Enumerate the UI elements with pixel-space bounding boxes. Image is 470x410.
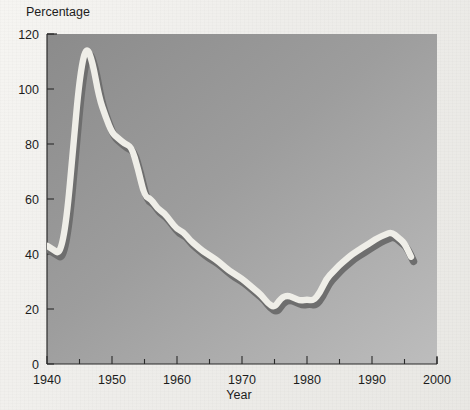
y-axis-title: Percentage <box>26 5 90 19</box>
y-tick-label: 20 <box>25 303 39 317</box>
line-chart: 020406080100120 194019501960197019801990… <box>0 0 470 410</box>
y-tick-label: 120 <box>18 28 39 42</box>
plot-area-background <box>47 34 437 364</box>
x-tick-label: 2000 <box>423 373 451 387</box>
chart-figure: 020406080100120 194019501960197019801990… <box>0 0 470 410</box>
x-tick-label: 1940 <box>33 373 61 387</box>
x-tick-label: 1950 <box>98 373 126 387</box>
x-axis-title: Year <box>226 388 251 402</box>
y-tick-label: 40 <box>25 248 39 262</box>
x-tick-label: 1960 <box>163 373 191 387</box>
y-tick-label: 80 <box>25 138 39 152</box>
x-tick-label: 1970 <box>228 373 256 387</box>
y-tick-label: 100 <box>18 83 39 97</box>
y-axis-tick-labels: 020406080100120 <box>18 28 39 372</box>
x-tick-label: 1990 <box>358 373 386 387</box>
x-axis-tick-labels: 1940195019601970198019902000 <box>33 373 451 387</box>
y-tick-label: 0 <box>32 358 39 372</box>
y-tick-label: 60 <box>25 193 39 207</box>
x-tick-label: 1980 <box>293 373 321 387</box>
